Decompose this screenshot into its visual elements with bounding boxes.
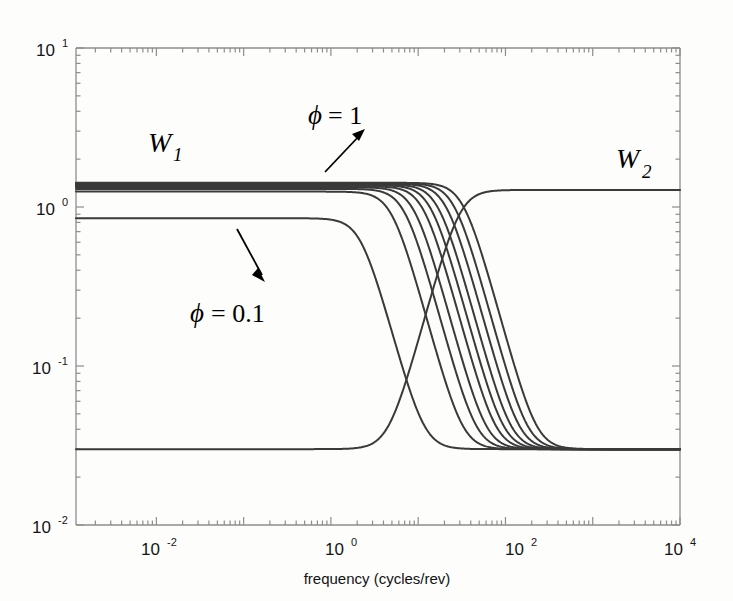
phi-symbol-low: ϕ [190,298,204,328]
w1-curve-6 [76,185,680,450]
w2-label-base: W [616,143,642,174]
w1-curve-5 [76,185,680,449]
x-tick-mantissa-0: 10 [141,540,160,559]
x-tick-exponent-1: 0 [351,536,357,548]
w1-curve-1 [76,192,680,450]
y-tick-exponent-1: -1 [58,355,68,367]
annotation-w2: W 2 [616,143,652,182]
y-tick-mantissa-1: 10 [32,359,51,378]
w1-label-subscript: 1 [173,144,183,165]
w1-label-base: W [148,127,174,158]
w2-label-subscript: 2 [642,161,652,182]
x-tick-mantissa-1: 10 [325,540,344,559]
phi-high-arrow-head [352,129,365,141]
y-tick-mantissa-0: 10 [32,518,51,537]
y-tick-exponent-0: -2 [58,514,68,526]
w1-curve-2 [76,189,680,449]
w1-curve-9 [76,183,680,449]
y-tick-exponent-3: 1 [62,37,68,49]
x-tick-mantissa-2: 10 [505,540,524,559]
w1-curve-4 [76,186,680,449]
x-tick-labels: 10 -2 10 0 10 2 10 4 [141,536,696,559]
x-axis-title: frequency (cycles/rev) [304,570,451,587]
w1-curve-8 [76,183,680,449]
y-tick-mantissa-2: 10 [36,200,55,219]
data-curves [76,183,680,449]
x-tick-exponent-2: 2 [531,536,537,548]
phi-low-arrow-shaft [237,229,262,275]
phi-low-text: = 0.1 [211,299,265,328]
chart-plot: 10 1 10 0 10 -1 10 -2 10 -2 10 0 10 2 10… [0,0,733,601]
w1-curve-0 [76,218,680,449]
figure-canvas: 10 1 10 0 10 -1 10 -2 10 -2 10 0 10 2 10… [0,0,733,601]
x-tick-mantissa-3: 10 [664,540,683,559]
annotation-phi-high: ϕ = 1 [308,100,365,172]
w2-curve [76,190,680,449]
y-tick-labels: 10 1 10 0 10 -1 10 -2 [32,37,68,537]
annotation-w1: W 1 [148,127,183,165]
w1-curve-3 [76,187,680,449]
w1-curve-7 [76,184,680,449]
y-tick-mantissa-3: 10 [36,41,55,60]
y-tick-exponent-2: 0 [62,196,68,208]
phi-low-arrow-head [252,268,265,282]
x-tick-exponent-0: -2 [167,536,177,548]
phi-symbol-high: ϕ [308,100,322,130]
x-tick-exponent-3: 4 [690,536,696,548]
phi-high-arrow-shaft [325,134,361,172]
annotation-phi-low: ϕ = 0.1 [190,229,265,328]
phi-high-text: = 1 [328,101,362,130]
